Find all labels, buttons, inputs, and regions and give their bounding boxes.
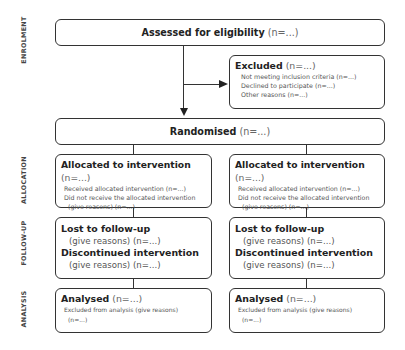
stage-label-analysis: ANALYSIS [20,291,28,328]
follow-up-box-left: Lost to follow-up (give reasons) (n=...)… [55,217,212,279]
randomised-count: (n=...) [239,126,270,137]
randomised-title: Randomised [170,126,237,137]
excluded-reason: Other reasons (n=...) [235,90,384,99]
analysed-title: Analysed [235,293,283,304]
arrow-down-icon [180,108,188,116]
allocation-not-received: Did not receive the allocated interventi… [235,193,384,202]
connector-followup-left [133,279,134,288]
analysis-excluded: Excluded from analysis (give reasons) [235,305,384,315]
excluded-reason: Declined to participate (n=...) [235,81,384,90]
allocation-title: Allocated to intervention [235,159,365,170]
lost-title: Lost to follow-up [61,223,150,234]
allocation-box-left: Allocated to intervention (n=...) Receiv… [55,154,212,208]
analysis-excluded: Excluded from analysis (give reasons) [61,305,211,315]
excluded-box: Excluded (n=...) Not meeting inclusion c… [229,55,385,109]
allocation-title: Allocated to intervention [61,159,191,170]
analysis-excluded-count: (n=...) [235,315,384,325]
allocation-not-received-reason: (give reasons) (n=...) [61,202,211,211]
assessed-box: Assessed for eligibility (n=...) [55,19,385,46]
analysed-title: Analysed [61,293,109,304]
assessed-count: (n=...) [268,27,299,38]
lost-title: Lost to follow-up [235,223,324,234]
connector-followup-right [306,279,307,288]
analysis-box-right: Analysed (n=...) Excluded from analysis … [229,288,385,333]
excluded-reason: Not meeting inclusion criteria (n=...) [235,72,384,81]
analysis-excluded-count: (n=...) [61,315,211,325]
assessed-title: Assessed for eligibility [142,27,265,38]
allocation-received: Received allocated intervention (n=...) [235,184,384,193]
allocation-received: Received allocated intervention (n=...) [61,184,211,193]
stage-label-allocation: ALLOCATION [20,156,28,204]
connector-to-excluded [184,84,220,85]
analysis-box-left: Analysed (n=...) Excluded from analysis … [55,288,212,333]
connector-assessed-to-randomised [183,46,184,110]
allocation-count: (n=...) [61,172,90,183]
discontinued-title: Discontinued intervention [61,247,199,258]
analysed-count: (n=...) [112,293,142,304]
randomised-box: Randomised (n=...) [55,118,385,145]
lost-detail: (give reasons) (n=...) [235,235,384,247]
analysed-count: (n=...) [286,293,316,304]
stage-label-enrolment: ENROLMENT [20,16,28,63]
excluded-title: Excluded [235,60,283,71]
connector-randomised-right [306,145,307,154]
connector-randomised-left [133,145,134,154]
lost-detail: (give reasons) (n=...) [61,235,211,247]
discontinued-detail: (give reasons) (n=...) [61,259,211,271]
follow-up-box-right: Lost to follow-up (give reasons) (n=...)… [229,217,385,279]
arrow-right-icon [219,80,228,88]
stage-label-follow-up: FOLLOW-UP [20,220,28,265]
allocation-not-received-reason: (give reasons) (n=...) [235,202,384,211]
discontinued-detail: (give reasons) (n=...) [235,259,384,271]
allocation-count: (n=...) [235,172,264,183]
allocation-not-received: Did not receive the allocated interventi… [61,193,211,202]
allocation-box-right: Allocated to intervention (n=...) Receiv… [229,154,385,208]
discontinued-title: Discontinued intervention [235,247,373,258]
excluded-count: (n=...) [286,60,316,71]
